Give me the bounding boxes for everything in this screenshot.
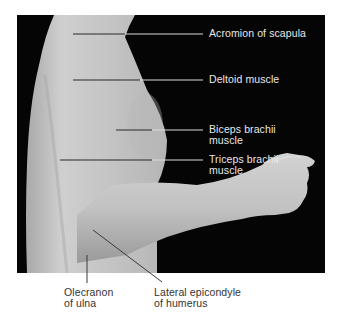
label-lateral-epicondyle-line2: of humerus <box>154 298 241 309</box>
label-triceps-line2: muscle <box>209 165 278 176</box>
label-triceps: Triceps brachii muscle <box>209 154 278 176</box>
label-biceps: Biceps brachii muscle <box>209 124 276 146</box>
anatomy-photo <box>17 15 325 273</box>
label-deltoid: Deltoid muscle <box>209 74 279 85</box>
label-lateral-epicondyle: Lateral epicondyle of humerus <box>154 287 241 309</box>
arm-figure-illustration <box>17 15 325 273</box>
label-acromion-line1: Acromion of scapula <box>209 28 306 39</box>
label-olecranon: Olecranon of ulna <box>64 287 113 309</box>
label-acromion: Acromion of scapula <box>209 28 306 39</box>
label-biceps-line2: muscle <box>209 135 276 146</box>
label-olecranon-line2: of ulna <box>64 298 113 309</box>
label-deltoid-line1: Deltoid muscle <box>209 74 279 85</box>
